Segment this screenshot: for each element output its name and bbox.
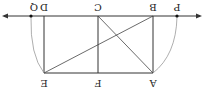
label-E: E bbox=[40, 78, 47, 89]
label-P: P bbox=[173, 2, 180, 13]
point-P bbox=[175, 14, 178, 17]
label-A: A bbox=[149, 78, 158, 89]
label-B: B bbox=[149, 2, 156, 13]
geometry-diagram: Q D C B P E F A bbox=[0, 0, 203, 92]
arc-QE bbox=[31, 17, 44, 73]
right-arrow-icon bbox=[196, 14, 202, 19]
left-arrow-icon bbox=[2, 14, 8, 19]
label-F: F bbox=[94, 78, 101, 89]
point-Q bbox=[29, 14, 32, 17]
label-D: D bbox=[40, 2, 48, 13]
label-Q: Q bbox=[30, 2, 38, 13]
arc-PA bbox=[153, 17, 177, 73]
segment-CA bbox=[98, 16, 153, 73]
label-C: C bbox=[94, 2, 102, 13]
